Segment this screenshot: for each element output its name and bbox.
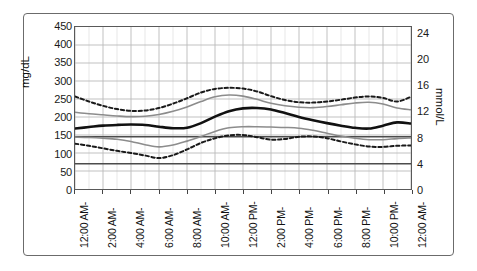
x-tick-mark: [215, 190, 216, 194]
x-tick-mark: [299, 190, 300, 194]
x-tick-label: 6:00 AM-: [163, 208, 175, 248]
y-tick-label-right: 4: [417, 158, 443, 169]
x-tick-label: 10:00 AM-: [219, 202, 231, 248]
x-tick-mark: [328, 190, 329, 194]
x-tick-mark: [74, 190, 75, 194]
series-line-1: [75, 95, 411, 117]
y-tick-label-left: 350: [38, 57, 72, 68]
x-tick-mark: [243, 190, 244, 194]
glucose-profile-chart-figure: mg/dL mmol/L 450400350300250200150100500…: [0, 0, 477, 271]
x-tick-mark: [130, 190, 131, 194]
y-tick-label-left: 0: [38, 185, 72, 196]
x-tick-label: 12:00 AM-: [416, 202, 428, 248]
y-axis-right-ticks: 24201612840: [417, 26, 445, 190]
data-series-layer: [75, 27, 411, 189]
y-axis-left-title: mg/dL: [19, 56, 31, 88]
x-tick-label: 2:00 AM-: [106, 208, 118, 248]
x-tick-mark: [187, 190, 188, 194]
x-tick-mark: [159, 190, 160, 194]
y-tick-label-right: 0: [417, 185, 443, 196]
series-line-2: [75, 108, 411, 129]
x-tick-mark: [412, 190, 413, 194]
y-tick-label-right: 12: [417, 106, 443, 117]
y-tick-label-left: 250: [38, 93, 72, 104]
y-tick-label-right: 20: [417, 53, 443, 64]
y-tick-label-left: 100: [38, 148, 72, 159]
y-tick-label-left: 50: [38, 166, 72, 177]
y-tick-label-left: 450: [38, 21, 72, 32]
x-tick-label: 4:00 AM-: [134, 208, 146, 248]
y-tick-label-left: 300: [38, 75, 72, 86]
x-tick-label: 8:00 PM-: [360, 207, 372, 248]
y-tick-label-right: 8: [417, 132, 443, 143]
x-axis-ticks: 12:00 AM-2:00 AM-4:00 AM-6:00 AM-8:00 AM…: [74, 190, 412, 252]
x-tick-label: 8:00 AM-: [191, 208, 203, 248]
x-tick-label: 2:00 PM-: [275, 207, 287, 248]
x-tick-label: 12:00 AM-: [78, 202, 90, 248]
x-tick-mark: [102, 190, 103, 194]
y-tick-label-left: 400: [38, 39, 72, 50]
x-tick-mark: [356, 190, 357, 194]
y-tick-label-left: 200: [38, 112, 72, 123]
y-tick-label-left: 150: [38, 130, 72, 141]
x-tick-label: 10:00 PM-: [388, 201, 400, 248]
plot-area: [74, 26, 412, 190]
y-tick-label-right: 24: [417, 27, 443, 38]
x-tick-label: 6:00 PM-: [332, 207, 344, 248]
y-axis-left-ticks: 450400350300250200150100500: [34, 26, 72, 190]
x-tick-mark: [271, 190, 272, 194]
x-tick-mark: [384, 190, 385, 194]
x-tick-label: 4:00 PM-: [303, 207, 315, 248]
y-tick-label-right: 16: [417, 80, 443, 91]
x-tick-label: 12:00 PM-: [247, 201, 259, 248]
